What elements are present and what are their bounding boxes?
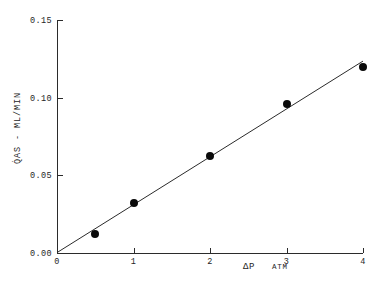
scatter-chart-figure: 0.15 0.10 0.05 0.00 0 1 2 3 4 Q̇AS - ML/… bbox=[0, 0, 382, 304]
data-point bbox=[283, 100, 291, 108]
data-point bbox=[359, 63, 367, 71]
trend-line bbox=[0, 0, 382, 304]
data-point bbox=[130, 199, 138, 207]
